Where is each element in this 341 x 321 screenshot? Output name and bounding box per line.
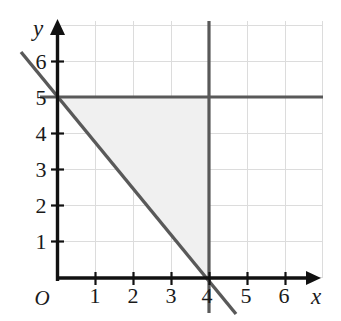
x-tick-label-6: 6 xyxy=(279,283,290,308)
graph-canvas: 1 2 3 4 5 6 1 2 3 4 5 6 y x O xyxy=(0,0,341,321)
y-tick-label-3: 3 xyxy=(36,157,47,182)
y-tick-label-5: 5 xyxy=(36,85,47,110)
x-axis-label: x xyxy=(310,284,322,309)
y-tick-label-1: 1 xyxy=(36,229,47,254)
coordinate-graph-figure: 1 2 3 4 5 6 1 2 3 4 5 6 y x O xyxy=(0,0,341,321)
x-tick-label-2: 2 xyxy=(128,283,139,308)
origin-label: O xyxy=(34,286,49,310)
y-tick-label-2: 2 xyxy=(36,193,47,218)
x-tick-label-3: 3 xyxy=(166,283,177,308)
x-tick-label-5: 5 xyxy=(241,283,252,308)
x-tick-label-1: 1 xyxy=(90,283,101,308)
y-axis-label: y xyxy=(31,16,44,41)
x-tick-label-4: 4 xyxy=(202,283,213,308)
y-tick-label-4: 4 xyxy=(36,121,47,146)
y-tick-label-6: 6 xyxy=(36,49,47,74)
